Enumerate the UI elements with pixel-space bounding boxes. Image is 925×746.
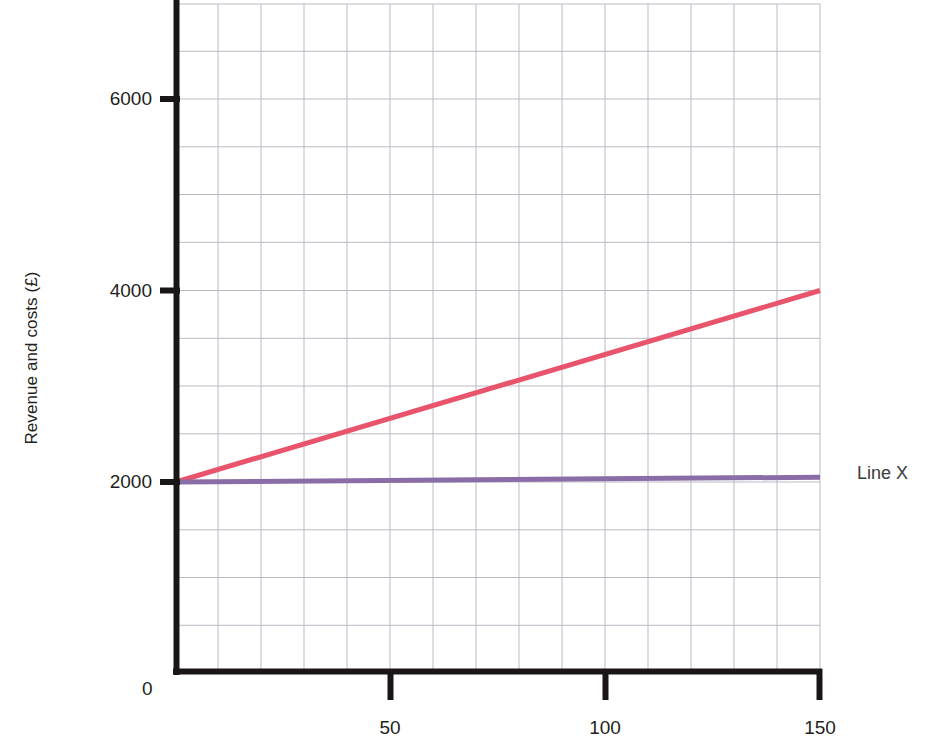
grid-vertical: [218, 4, 820, 670]
chart-container: Revenue and costs (£) 6000 4000 2000 0 5…: [0, 0, 925, 746]
axis-lines: [173, 0, 822, 675]
grid-lines: [176, 4, 820, 670]
series-line-x: [176, 477, 820, 482]
plot-svg: [0, 0, 925, 746]
tick-marks: [160, 99, 820, 700]
grid-horizontal: [176, 4, 820, 625]
